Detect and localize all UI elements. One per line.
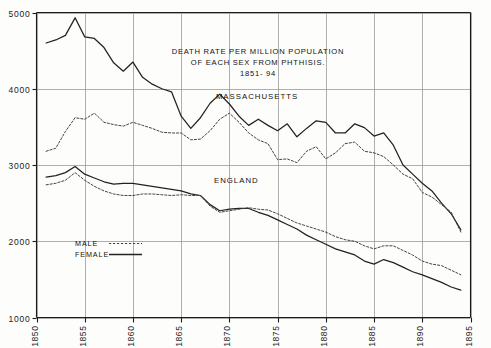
- legend-label-male: MALE: [75, 239, 98, 248]
- legend-label-female: FEMALE: [75, 250, 109, 259]
- series-annotation-england: ENGLAND: [214, 176, 259, 185]
- y-tick-label: 4000: [8, 85, 30, 95]
- chart-canvas: 1000200030004000500018501855186018651870…: [0, 0, 491, 348]
- chart-title-line: 1851- 94: [240, 69, 276, 78]
- chart-title-line: OF EACH SEX FROM PHTHISIS.: [191, 58, 325, 67]
- y-tick-label: 2000: [8, 237, 30, 247]
- x-tick-label: 1875: [271, 326, 281, 347]
- x-tick-label: 1880: [319, 326, 329, 347]
- y-tick-label: 1000: [8, 314, 30, 324]
- chart-title-line: DEATH RATE PER MILLION POPULATION: [172, 47, 344, 56]
- series-annotation-massachusetts: MASSACHUSETTS: [216, 92, 298, 101]
- y-tick-label: 5000: [8, 9, 30, 19]
- x-tick-label: 1870: [222, 326, 232, 347]
- x-tick-label: 1885: [367, 326, 377, 347]
- y-tick-label: 3000: [8, 161, 30, 171]
- chart-figure: 1000200030004000500018501855186018651870…: [0, 0, 491, 348]
- x-tick-label: 1850: [30, 326, 40, 347]
- x-tick-label: 1860: [126, 326, 136, 347]
- x-tick-label: 1865: [174, 326, 184, 347]
- x-tick-label: 1855: [78, 326, 88, 347]
- x-tick-label: 1890: [415, 326, 425, 347]
- x-tick-label: 1895: [464, 326, 474, 347]
